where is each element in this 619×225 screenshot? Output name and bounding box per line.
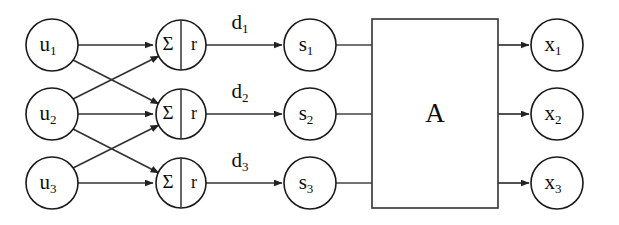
u-node-2[interactable]: u2: [26, 88, 78, 140]
edge-u3-sum2: [73, 125, 159, 168]
x-node-3-sub: 3: [555, 181, 562, 196]
u-node-3[interactable]: u3: [26, 157, 78, 209]
signal-flow-diagram: A u1 u2 u3: [0, 0, 619, 225]
edge-label-d2-base: d: [232, 79, 243, 103]
summer-node-3-sigma: Σ: [162, 171, 173, 192]
x-node-3-base: x: [545, 170, 556, 194]
summer-node-3[interactable]: Σ r: [156, 158, 206, 208]
edge-group-state-to-block: [336, 45, 372, 183]
edge-label-d3-base: d: [232, 148, 243, 172]
summer-node-1[interactable]: Σ r: [156, 20, 206, 70]
output-node-group: x1 x2 x3: [531, 19, 583, 209]
edge-label-group: d1 d2 d3: [232, 10, 249, 174]
s-node-3[interactable]: s3: [284, 157, 336, 209]
state-node-group: s1 s2 s3: [284, 19, 336, 209]
u-node-1-sub: 1: [50, 43, 57, 58]
u-node-2-sub: 2: [50, 112, 57, 127]
edge-u2-sum3: [73, 129, 159, 173]
s-node-2-base: s: [299, 101, 307, 125]
u-node-1-base: u: [40, 32, 51, 56]
edge-label-d2-sub: 2: [242, 90, 249, 105]
edge-group-block-to-output: [498, 45, 529, 183]
s-node-1[interactable]: s1: [284, 19, 336, 71]
x-node-2-base: x: [545, 101, 556, 125]
u-node-2-base: u: [40, 101, 51, 125]
summer-node-3-r: r: [191, 172, 197, 192]
u-node-3-sub: 3: [50, 181, 57, 196]
x-node-2[interactable]: x2: [531, 88, 583, 140]
s-node-3-base: s: [299, 170, 307, 194]
summer-node-group: Σ r Σ r Σ r: [156, 20, 206, 208]
s-node-1-base: s: [299, 32, 307, 56]
summer-node-2-sigma: Σ: [162, 102, 173, 123]
x-node-3[interactable]: x3: [531, 157, 583, 209]
edge-u1-sum2: [73, 60, 159, 104]
edge-label-d3-sub: 3: [242, 159, 249, 174]
s-node-1-sub: 1: [307, 43, 314, 58]
x-node-1-base: x: [545, 32, 556, 56]
x-node-2-sub: 2: [555, 112, 562, 127]
edge-u2-sum1: [73, 56, 159, 99]
edge-label-d1-sub: 1: [242, 21, 249, 36]
edge-label-d2: d2: [232, 79, 249, 105]
summer-node-1-sigma: Σ: [162, 33, 173, 54]
s-node-2[interactable]: s2: [284, 88, 336, 140]
s-node-2-sub: 2: [307, 112, 314, 127]
x-node-1[interactable]: x1: [531, 19, 583, 71]
edge-group-input-to-summer: [73, 45, 159, 183]
u-node-3-base: u: [40, 170, 51, 194]
edge-label-d1-base: d: [232, 10, 243, 34]
summer-node-2-r: r: [191, 103, 197, 123]
u-node-1[interactable]: u1: [26, 19, 78, 71]
summer-node-2[interactable]: Σ r: [156, 89, 206, 139]
summer-node-1-r: r: [191, 34, 197, 54]
edge-label-d1: d1: [232, 10, 249, 36]
x-node-1-sub: 1: [555, 43, 562, 58]
diagram-canvas: A u1 u2 u3: [0, 0, 619, 225]
matrix-block-label: A: [425, 98, 445, 128]
s-node-3-sub: 3: [307, 181, 314, 196]
input-node-group: u1 u2 u3: [26, 19, 78, 209]
matrix-block-a: A: [372, 19, 498, 208]
edge-label-d3: d3: [232, 148, 249, 174]
